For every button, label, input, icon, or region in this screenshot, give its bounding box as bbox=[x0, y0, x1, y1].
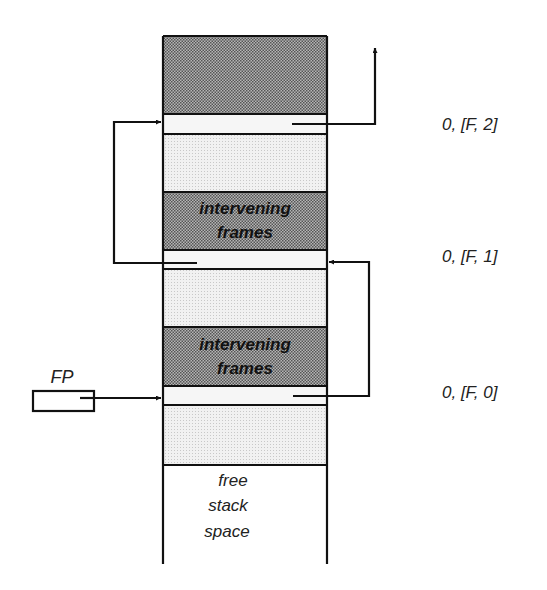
frame-body-0 bbox=[163, 405, 327, 465]
slot-label-f1: 0, [F, 1] bbox=[442, 247, 499, 266]
frame-pointer-label: FP bbox=[50, 367, 73, 387]
free-space-line2: stack bbox=[208, 496, 249, 515]
slot-label-f2: 0, [F, 2] bbox=[442, 115, 499, 134]
stack-diagram: intervening frames intervening frames fr… bbox=[0, 0, 547, 590]
frame-body-2 bbox=[163, 134, 327, 192]
intervening-label-lower-line1: intervening bbox=[199, 335, 291, 354]
intervening-label-lower-line2: frames bbox=[217, 359, 273, 378]
slot-label-f0: 0, [F, 0] bbox=[442, 383, 499, 402]
frame-pointer-box bbox=[33, 391, 94, 411]
link-slot-f1 bbox=[163, 250, 327, 269]
frame-body-1 bbox=[163, 269, 327, 327]
intervening-label-upper-line2: frames bbox=[217, 223, 273, 242]
free-space-line3: space bbox=[204, 522, 249, 541]
intervening-label-upper-line1: intervening bbox=[199, 199, 291, 218]
free-space-line1: free bbox=[218, 471, 247, 490]
frame-body-top bbox=[163, 37, 327, 114]
